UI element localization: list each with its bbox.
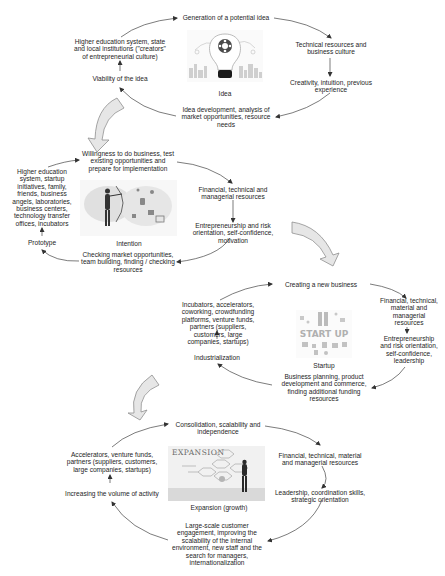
intention-caption: Intention xyxy=(106,240,152,247)
expansion-top-label: Consolidation, scalability and independe… xyxy=(170,421,266,436)
startup-caption: Startup xyxy=(304,362,344,369)
svg-text:EXPANSION: EXPANSION xyxy=(172,448,224,457)
block-arrow-2 xyxy=(292,222,339,266)
expansion-right-bottom-label: Leadership, coordination skills, strateg… xyxy=(274,489,366,504)
intention-bottom-label: Checking market opportunities, team buil… xyxy=(80,251,176,273)
lightbulb-gear-icon xyxy=(187,30,263,82)
idea-top-label: Generation of a potential idea xyxy=(178,14,274,21)
expansion-right-top-label: Financial, technical, material and manag… xyxy=(272,452,368,467)
startup-right-bottom-label: Entrepreneurship and risk orientation, s… xyxy=(378,335,440,365)
intention-image xyxy=(80,180,177,236)
intention-left-bottom-label: Prototype xyxy=(20,239,64,246)
startup-image: START UP xyxy=(296,310,352,358)
expansion-bottom-label: Large-scale customer engagement, improvi… xyxy=(170,522,264,566)
expansion-board-icon: EXPANSION xyxy=(168,446,265,501)
archer-target-icon xyxy=(80,180,177,236)
intention-right-bottom-label: Entrepreneurship and risk orientation, s… xyxy=(190,222,276,244)
idea-image xyxy=(187,30,263,82)
intention-top-label: Willingness to do business, test existin… xyxy=(80,150,176,172)
idea-left-bottom-label: Viability of the idea xyxy=(88,75,152,82)
idea-left-top-label: Higher education system, state and local… xyxy=(74,38,166,60)
block-arrow-3 xyxy=(128,375,159,420)
block-arrow-1 xyxy=(88,98,124,152)
idea-caption: Idea xyxy=(205,90,245,97)
expansion-left-bottom-label: Increasing the volume of activity xyxy=(64,490,160,497)
intention-left-top-label: Higher education system, startup initiat… xyxy=(10,168,74,227)
startup-bottom-label: Business planning, product development a… xyxy=(278,373,370,403)
startup-top-label: Creating a new business xyxy=(272,281,370,288)
startup-left-top-label: Incubators, accelerators, coworking, cro… xyxy=(176,301,260,345)
expansion-left-top-label: Accelerators, venture funds, partners (s… xyxy=(66,451,158,473)
start-up-icon: START UP xyxy=(296,310,352,358)
idea-right-bottom-label: Creativity, intuition, previous experien… xyxy=(286,79,376,94)
expansion-caption: Expansion (growth) xyxy=(186,504,252,511)
startup-left-bottom-label: Industrialization xyxy=(186,354,248,361)
svg-text:START UP: START UP xyxy=(300,329,349,339)
startup-right-top-label: Financial, technical, material and manag… xyxy=(380,297,438,327)
expansion-image: EXPANSION xyxy=(168,446,265,501)
idea-right-top-label: Technical resources and business culture xyxy=(292,41,370,56)
idea-bottom-label: Idea development, analysis of market opp… xyxy=(180,106,272,128)
intention-right-top-label: Financial, technical and managerial reso… xyxy=(194,186,272,201)
